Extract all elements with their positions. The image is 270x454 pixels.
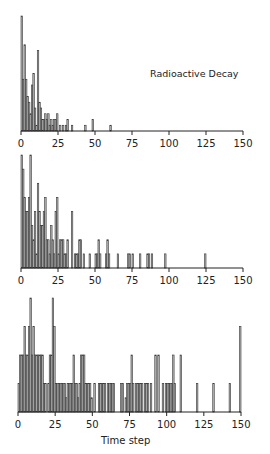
histogram-bar bbox=[122, 384, 123, 413]
histogram-bar bbox=[91, 398, 92, 412]
histogram-bar bbox=[62, 125, 63, 131]
histogram-bar bbox=[117, 254, 118, 268]
histogram-bar bbox=[71, 125, 72, 131]
histogram-panel-1: 0255075100125150 bbox=[18, 16, 253, 149]
histogram-bar bbox=[147, 384, 148, 413]
histogram-bar bbox=[132, 384, 133, 413]
x-tick-label: 125 bbox=[194, 419, 213, 430]
x-tick-label: 50 bbox=[89, 275, 102, 286]
x-tick-label: 0 bbox=[18, 275, 24, 286]
histogram-bar bbox=[162, 384, 163, 413]
x-tick-label: 25 bbox=[52, 275, 65, 286]
x-tick-label: 100 bbox=[159, 138, 178, 149]
histogram-bar bbox=[45, 384, 46, 413]
x-tick-label: 150 bbox=[233, 275, 252, 286]
histogram-panel-2: 0255075100125150 bbox=[18, 155, 253, 286]
x-tick-label: 75 bbox=[126, 138, 139, 149]
histogram-bar bbox=[165, 254, 166, 268]
x-tick-label: 0 bbox=[15, 419, 21, 430]
x-axis-label: Time step bbox=[100, 435, 150, 446]
histogram-bar bbox=[67, 240, 68, 268]
histogram-bar bbox=[80, 240, 81, 268]
x-tick-label: 0 bbox=[18, 138, 24, 149]
x-tick-label: 150 bbox=[233, 138, 252, 149]
histogram-bar bbox=[94, 384, 95, 413]
histogram-bar bbox=[67, 120, 68, 132]
x-tick-label: 25 bbox=[52, 138, 65, 149]
histogram-bar bbox=[229, 384, 230, 413]
x-tick-label: 125 bbox=[196, 138, 215, 149]
x-tick-label: 100 bbox=[157, 419, 176, 430]
histogram-bar bbox=[113, 384, 114, 413]
histogram-bar bbox=[180, 355, 181, 412]
x-tick-label: 50 bbox=[86, 419, 99, 430]
histogram-bar bbox=[110, 125, 111, 131]
histogram-bar bbox=[57, 114, 58, 131]
histogram-bar bbox=[240, 327, 241, 413]
histogram-bar bbox=[155, 355, 156, 412]
histogram-bar bbox=[99, 254, 100, 268]
histogram-panel-3: 0255075100125150 bbox=[15, 298, 251, 430]
histogram-bar bbox=[148, 254, 149, 268]
histogram-bar bbox=[59, 125, 60, 131]
x-tick-label: 75 bbox=[123, 419, 136, 430]
x-tick-label: 75 bbox=[126, 275, 139, 286]
histogram-bar bbox=[108, 254, 109, 268]
x-tick-label: 100 bbox=[159, 275, 178, 286]
histogram-bar bbox=[132, 254, 133, 268]
x-tick-label: 25 bbox=[49, 419, 62, 430]
histogram-bar bbox=[151, 254, 152, 268]
radioactive-decay-chart: 0255075100125150 0255075100125150 025507… bbox=[0, 0, 270, 454]
histogram-bar bbox=[129, 254, 130, 268]
histogram-bar bbox=[85, 125, 86, 131]
histogram-bar bbox=[83, 254, 84, 268]
histogram-bar bbox=[92, 120, 93, 132]
histogram-bar bbox=[139, 254, 140, 268]
x-tick-label: 125 bbox=[196, 275, 215, 286]
histogram-bar bbox=[196, 384, 197, 413]
x-tick-label: 50 bbox=[89, 138, 102, 149]
histogram-bar bbox=[174, 384, 175, 413]
histogram-bar bbox=[141, 384, 142, 413]
histogram-bar bbox=[213, 384, 214, 413]
histogram-bar bbox=[150, 384, 151, 413]
histogram-bar bbox=[71, 212, 72, 269]
histogram-bar bbox=[89, 254, 90, 268]
histogram-bar bbox=[104, 384, 105, 413]
histogram-bar bbox=[205, 254, 206, 268]
x-tick-label: 150 bbox=[231, 419, 250, 430]
histogram-bar bbox=[158, 355, 159, 412]
chart-title: Radioactive Decay bbox=[150, 68, 239, 79]
